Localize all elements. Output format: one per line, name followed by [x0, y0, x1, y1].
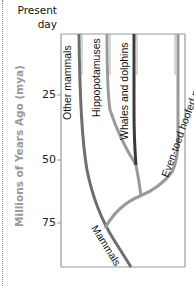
- branch-hippo-whale: [136, 165, 141, 196]
- branch-artiodactyla: [105, 34, 178, 228]
- phylogenetic-tree: Other mammals Hippopotamuses Whales and …: [0, 0, 194, 286]
- branch-whales: [134, 34, 136, 165]
- label-other-mammals: Other mammals: [61, 45, 73, 120]
- label-even-toed: Even-toed hoofed mammals: [159, 51, 194, 179]
- label-hippopotamuses: Hippopotamuses: [90, 38, 102, 117]
- label-whales-dolphins: Whales and dolphins: [118, 43, 130, 140]
